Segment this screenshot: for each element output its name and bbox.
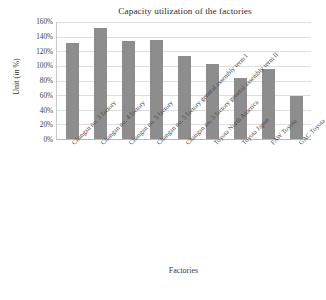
y-tick-label: 80% [29,77,53,85]
bar-slot [58,22,86,139]
y-axis-title: Unit (in %) [12,42,21,112]
y-tick-label: 0% [29,136,53,144]
x-axis-tick-labels: Changan no. 3 factory Changan no. 4 fact… [56,141,311,266]
bar[interactable] [178,56,191,139]
y-tick-label: 40% [29,107,53,115]
y-tick-label: 120% [29,48,53,56]
y-tick-label: 20% [29,121,53,129]
y-tick-label: 140% [29,33,53,41]
bar[interactable] [262,69,275,139]
y-tick-label: 60% [29,92,53,100]
bar[interactable] [66,43,79,139]
y-tick-label: 160% [29,18,53,26]
chart-title: Capacity utilization of the factories [56,6,314,16]
y-axis-tick-labels: 160% 140% 120% 100% 80% 60% 40% 20% 0% [26,22,53,140]
y-tick-label: 100% [29,62,53,70]
bar[interactable] [206,64,219,139]
x-axis-title: Factories [56,266,311,275]
